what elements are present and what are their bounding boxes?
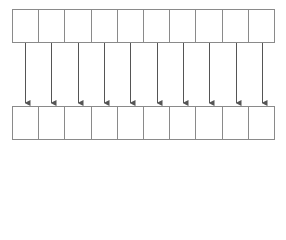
bottom-array-cell (39, 107, 65, 139)
bottom-array-cell (170, 107, 196, 139)
bottom-array-cell (118, 107, 144, 139)
bottom-array-cell (196, 107, 222, 139)
bottom-array-cell (92, 107, 118, 139)
bottom-array-cell (144, 107, 170, 139)
bottom-array-cell (249, 107, 274, 139)
bottom-array-cell (65, 107, 91, 139)
bottom-array-cell (223, 107, 249, 139)
bottom-array (12, 106, 275, 140)
bottom-array-cell (13, 107, 39, 139)
